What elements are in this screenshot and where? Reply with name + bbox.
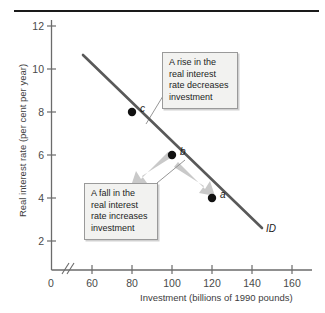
chart-canvas — [0, 0, 325, 313]
x-tick-label-0: 0 — [38, 277, 64, 289]
fall-arrow-icon — [174, 162, 215, 196]
annotation-rise-line-4: investment — [169, 92, 232, 104]
x-tick-label-140: 140 — [239, 277, 265, 289]
x-tick-label-120: 120 — [199, 277, 225, 289]
data-point-label-a: a — [220, 189, 226, 200]
annotation-fall-line-1: A fall in the — [91, 188, 152, 200]
data-point-b — [168, 151, 176, 159]
rise-arrow-icon — [131, 152, 172, 186]
annotation-fall-line-2: real interest — [91, 200, 152, 212]
annotation-rise-line-1: A rise in the — [169, 57, 232, 69]
x-tick-label-160: 160 — [279, 277, 305, 289]
axis-break-icon — [62, 263, 74, 274]
data-point-a — [208, 194, 216, 202]
annotation-rise-line-3: rate decreases — [169, 80, 232, 92]
annotation-rise: A rise in the real interest rate decreas… — [162, 52, 238, 109]
id-curve-label: ID — [266, 223, 276, 234]
data-point-label-c: c — [140, 103, 145, 114]
annotation-rise-line-2: real interest — [169, 69, 232, 81]
annotation-fall-line-3: rate increases — [91, 211, 152, 223]
annotation-fall: A fall in the real interest rate increas… — [84, 183, 158, 240]
data-point-c — [128, 108, 136, 116]
y-tick-label-12: 12 — [22, 20, 44, 32]
data-point-label-b: b — [180, 146, 186, 157]
x-axis-title: Investment (billions of 1990 pounds) — [140, 292, 293, 303]
annotation-fall-line-4: investment — [91, 223, 152, 235]
investment-demand-figure: 12 10 8 6 4 2 0 60 80 100 120 140 160 Re… — [0, 0, 325, 313]
y-tick-label-2: 2 — [22, 235, 44, 247]
y-axis-title: Real interest rate (per cent per year) — [17, 56, 28, 226]
x-tick-label-60: 60 — [79, 277, 105, 289]
x-tick-label-100: 100 — [159, 277, 185, 289]
x-tick-label-80: 80 — [119, 277, 145, 289]
